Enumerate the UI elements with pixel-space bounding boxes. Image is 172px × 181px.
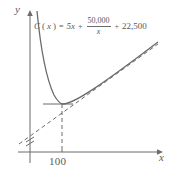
fraction-numerator: 50,000 — [87, 17, 111, 26]
equation-plus-sign-2: + — [114, 23, 121, 31]
y-axis-label: y — [15, 4, 20, 15]
cost-function-figure: y x 100 C(x) = 5x + 50,000 x + 22,500 — [0, 0, 172, 181]
asymptote-dashed-line — [19, 44, 158, 144]
x-axis-label: x — [159, 152, 164, 163]
equation-close-paren: ) — [53, 22, 56, 31]
x-tick-label-100: 100 — [49, 156, 66, 167]
fraction-denominator: x — [96, 27, 102, 36]
equation-constant-term: 22,500 — [122, 22, 147, 31]
equation-function-name: C — [34, 22, 40, 31]
equation-plus-sign-1: + — [77, 23, 84, 31]
equation-equals-sign: = — [58, 23, 65, 31]
equation-label: C(x) = 5x + 50,000 x + 22,500 — [34, 17, 147, 36]
equation-open-paren: ( — [42, 22, 45, 31]
x-axis — [18, 149, 163, 155]
y-axis-arrowhead — [27, 10, 33, 16]
equation-fraction: 50,000 x — [87, 17, 111, 36]
equation-argument: x — [47, 22, 51, 31]
equation-linear-term: 5x — [67, 22, 76, 31]
